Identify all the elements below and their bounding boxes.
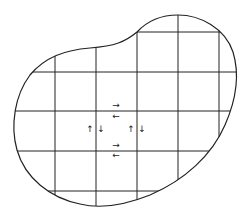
- arrow-down-icon: ↓: [138, 124, 146, 134]
- arrow-up-icon: ↑: [127, 124, 135, 134]
- grid: [0, 0, 245, 219]
- region-grid-diagram: → ← ↑ ↓ ↑ ↓ → ←: [0, 0, 245, 219]
- arrow-right-icon: →: [112, 100, 120, 110]
- arrow-down-icon: ↓: [97, 124, 105, 134]
- arrow-right-icon: →: [112, 140, 120, 150]
- arrow-left-icon: ←: [112, 150, 120, 160]
- arrow-up-icon: ↑: [86, 124, 94, 134]
- diagram-canvas: → ← ↑ ↓ ↑ ↓ → ←: [0, 0, 245, 219]
- arrow-left-icon: ←: [112, 111, 120, 121]
